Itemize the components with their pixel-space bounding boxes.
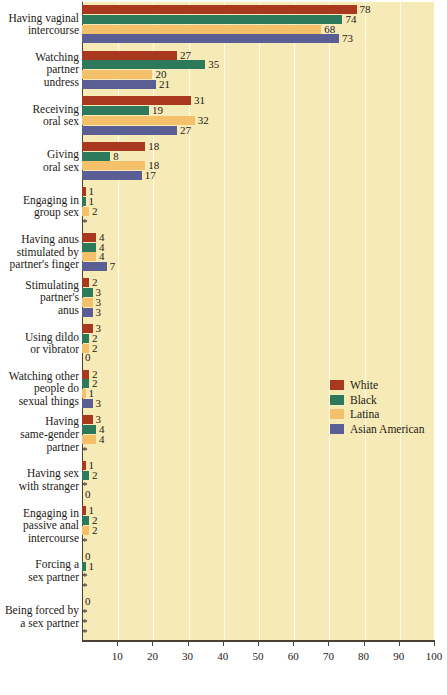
bar-row: 2 xyxy=(82,207,434,216)
legend-swatch-asian-american xyxy=(330,424,344,434)
legend-swatch-latina xyxy=(330,409,344,419)
bar-value-label: 19 xyxy=(152,104,163,116)
category-label-line: partner xyxy=(0,63,79,76)
bar-asian-american xyxy=(82,34,339,43)
bar-latina xyxy=(82,298,93,307)
bar-value-label: 78 xyxy=(360,3,371,15)
bar-value-label: 35 xyxy=(208,58,219,70)
x-tick-20 xyxy=(152,640,153,646)
bar-white xyxy=(82,370,89,379)
bar-value-label: 2 xyxy=(92,342,98,354)
bar-value-label: 1 xyxy=(89,387,95,399)
bar-row: * xyxy=(82,571,434,580)
x-tick-30 xyxy=(188,640,189,646)
bar-value-label: 2 xyxy=(92,205,98,217)
bar-row: 2 xyxy=(82,471,434,480)
bar-row: 1 xyxy=(82,506,434,515)
bar-white xyxy=(82,233,96,242)
category-label-line: Having sex xyxy=(0,467,79,480)
category-label: Engaging inpassive analintercourse xyxy=(0,507,79,545)
bar-row: 1 xyxy=(82,461,434,470)
bar-row: 68 xyxy=(82,25,434,34)
bar-value-label: 7 xyxy=(110,260,116,272)
category-label-line: Being forced by xyxy=(0,604,79,617)
bar-row: 27 xyxy=(82,51,434,60)
bar-value-label: 0 xyxy=(85,351,91,363)
category-label-line: oral sex xyxy=(0,115,79,128)
bar-row: 0 xyxy=(82,597,434,606)
bar-white xyxy=(82,5,357,14)
category-label-line: Giving xyxy=(0,148,79,161)
bar-row: 32 xyxy=(82,116,434,125)
x-tick-label-40: 40 xyxy=(208,650,238,662)
bar-value-label: 4 xyxy=(99,433,105,445)
bar-value-label: 18 xyxy=(148,140,159,152)
bar-white xyxy=(82,461,86,470)
bar-asian-american xyxy=(82,171,142,180)
legend-swatch-white xyxy=(330,380,344,390)
bar-asian-american xyxy=(82,80,156,89)
bar-value-label: 27 xyxy=(180,124,191,136)
bar-row: 18 xyxy=(82,142,434,151)
bar-black xyxy=(82,425,96,434)
x-tick-label-30: 30 xyxy=(173,650,203,662)
category-label-line: Engaging in xyxy=(0,507,79,520)
legend-item: Asian American xyxy=(330,422,424,437)
legend-item: Black xyxy=(330,393,424,408)
bar-latina xyxy=(82,435,96,444)
bar-row: 2 xyxy=(82,334,434,343)
bar-asian-american xyxy=(82,399,93,408)
legend-item: White xyxy=(330,378,424,393)
bar-value-label: 74 xyxy=(345,13,356,25)
category-label-line: sex partner xyxy=(0,571,79,584)
bar-row: 18 xyxy=(82,161,434,170)
category-label-line: people do xyxy=(0,382,79,395)
category-label-line: partner's xyxy=(0,291,79,304)
x-tick-label-20: 20 xyxy=(137,650,167,662)
category-label-line: anus xyxy=(0,304,79,317)
bar-row: 4 xyxy=(82,243,434,252)
bar-row: * xyxy=(82,480,434,489)
x-tick-100 xyxy=(434,640,435,646)
bar-row: * xyxy=(82,607,434,616)
bar-white xyxy=(82,96,191,105)
bar-row: * xyxy=(82,617,434,626)
category-label-line: Forcing a xyxy=(0,558,79,571)
bar-row: 2 xyxy=(82,526,434,535)
x-tick-label-10: 10 xyxy=(102,650,132,662)
bar-row: * xyxy=(82,536,434,545)
category-label-line: intercourse xyxy=(0,24,79,37)
category-label-line: same-gender xyxy=(0,428,79,441)
bar-value-label: 68 xyxy=(324,23,335,35)
bar-latina xyxy=(82,389,86,398)
bar-black xyxy=(82,152,110,161)
x-tick-label-100: 100 xyxy=(419,650,447,662)
bar-latina xyxy=(82,252,96,261)
category-label: Givingoral sex xyxy=(0,148,79,173)
bar-row: 1 xyxy=(82,197,434,206)
bar-value-label: 32 xyxy=(198,114,209,126)
legend-label: White xyxy=(350,379,378,391)
bar-value-label: 2 xyxy=(92,469,98,481)
legend-swatch-black xyxy=(330,395,344,405)
category-label-line: partner xyxy=(0,441,79,454)
bar-row: 8 xyxy=(82,152,434,161)
bar-white xyxy=(82,278,89,287)
category-label-line: group sex xyxy=(0,206,79,219)
category-label: Watching otherpeople dosexual things xyxy=(0,370,79,408)
bar-latina xyxy=(82,526,89,535)
x-tick-60 xyxy=(293,640,294,646)
bar-row: * xyxy=(82,627,434,636)
category-label-line: Receiving xyxy=(0,103,79,116)
bar-row: 4 xyxy=(82,233,434,242)
bar-black xyxy=(82,60,205,69)
category-label: Having anusstimulated bypartner's finger xyxy=(0,233,79,271)
bar-white xyxy=(82,324,93,333)
category-label-line: partner's finger xyxy=(0,258,79,271)
bar-black xyxy=(82,243,96,252)
x-tick-label-70: 70 xyxy=(313,650,343,662)
x-tick-70 xyxy=(328,640,329,646)
bar-latina xyxy=(82,25,321,34)
category-label-line: a sex partner xyxy=(0,617,79,630)
x-tick-label-60: 60 xyxy=(278,650,308,662)
